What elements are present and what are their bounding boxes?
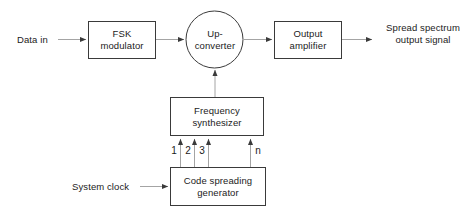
spread-spectrum-output-label: Spread spectrum output signal [376,22,470,45]
up-converter-label: Up- converter [185,28,245,51]
bus-tap-label-1: 1 [168,145,180,156]
system-clock-label: System clock [72,181,142,193]
bus-tap-label-3: 3 [196,145,208,156]
fsk-modulator-label: FSK modulator [88,28,156,51]
output-amplifier-label: Output amplifier [274,28,342,51]
frequency-synthesizer-label: Frequency synthesizer [170,105,264,128]
bus-tap-label-n: n [252,145,264,156]
data-in-label: Data in [17,34,62,46]
code-spreading-generator-label: Code spreading generator [170,175,266,198]
bus-tap-label-2: 2 [182,145,194,156]
block-diagram: FSK modulator Up- converter Output ampli… [0,0,474,218]
